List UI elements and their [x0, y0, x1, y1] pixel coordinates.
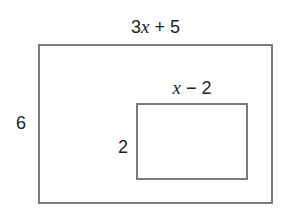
inner-width-variable: x — [173, 77, 181, 98]
inner-height-label: 2 — [118, 138, 128, 156]
inner-width-label: x − 2 — [137, 78, 247, 97]
diagram-canvas: 3x + 5 x − 2 6 2 — [0, 0, 289, 208]
outer-width-label: 3x + 5 — [0, 17, 289, 36]
inner-width-rest: − 2 — [181, 78, 212, 98]
outer-height-label: 6 — [16, 114, 26, 132]
outer-width-coefficient: 3 — [131, 17, 141, 37]
inner-rectangle — [136, 103, 248, 180]
outer-width-rest: + 5 — [149, 17, 180, 37]
